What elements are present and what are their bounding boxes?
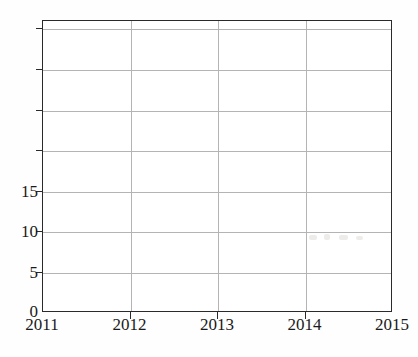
chart-title-strip [0,0,418,20]
gridline-y-20 [43,151,391,152]
gridline-y-35 [43,29,391,30]
x-tick-label-2014: 2014 [269,316,341,334]
y-tick-label-15: 15 [4,183,38,200]
scan-artifact [309,235,317,240]
scan-artifact [339,235,348,240]
gridline-x-2014 [306,21,307,311]
gridline-x-2012 [131,21,132,311]
x-tick-label-2015: 2015 [356,316,418,334]
y-axis-labels: 15 10 5 0 [0,0,38,357]
chart-figure: 15 10 5 0 2011 2012 2013 2014 2015 [0,0,418,357]
gridline-y-25 [43,111,391,112]
gridline-y-10 [43,232,391,233]
gridline-y-30 [43,70,391,71]
gridline-y-5 [43,273,391,274]
y-tick-label-5: 5 [4,264,38,281]
scan-artifact [324,234,330,240]
x-tick-label-2013: 2013 [181,316,253,334]
scan-artifact [356,236,363,240]
y-tick-label-10: 10 [4,223,38,240]
gridline-y-15 [43,192,391,193]
plot-area [42,20,392,312]
gridline-x-2013 [218,21,219,311]
x-tick-label-2011: 2011 [6,316,78,334]
x-tick-label-2012: 2012 [94,316,166,334]
